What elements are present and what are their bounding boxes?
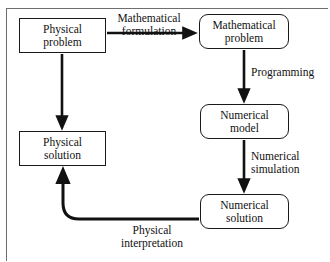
- node-numerical-model-label: Numerical model: [220, 109, 269, 134]
- node-numerical-solution[interactable]: Numerical solution: [200, 194, 289, 229]
- node-physical-problem-label: Physical problem: [43, 23, 82, 48]
- diagram-canvas: Physical problem Mathematical problem Nu…: [0, 0, 330, 262]
- node-physical-problem[interactable]: Physical problem: [19, 18, 106, 53]
- node-numerical-solution-label: Numerical solution: [220, 199, 269, 224]
- edge-label-physical-interpretation: Physical interpretation: [96, 224, 208, 249]
- node-physical-solution[interactable]: Physical solution: [19, 131, 106, 166]
- node-numerical-model[interactable]: Numerical model: [200, 104, 289, 139]
- edge-label-mathematical-formulation: Mathematical formulation: [108, 12, 190, 37]
- connector-physical-interpretation: [63, 175, 199, 219]
- node-mathematical-problem[interactable]: Mathematical problem: [199, 14, 289, 49]
- edge-label-numerical-simulation: Numerical simulation: [251, 150, 329, 175]
- node-mathematical-problem-label: Mathematical problem: [212, 19, 275, 44]
- edge-label-programming: Programming: [251, 66, 329, 79]
- node-physical-solution-label: Physical solution: [43, 136, 82, 161]
